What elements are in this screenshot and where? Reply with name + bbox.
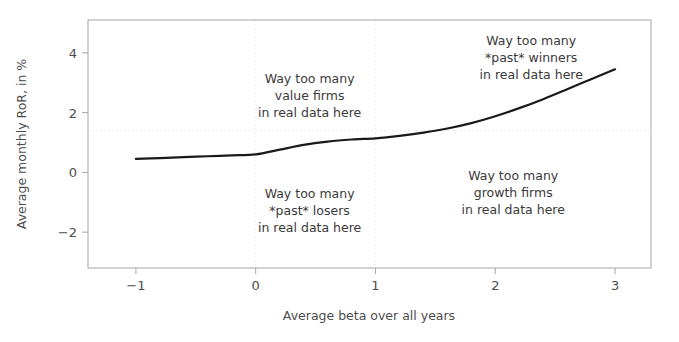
y-tick-label: −2 xyxy=(58,225,77,240)
annotation-line: growth firms xyxy=(474,185,553,200)
annotation-line: *past* winners xyxy=(485,50,577,65)
y-tick-label: 2 xyxy=(69,106,77,121)
x-axis-title: Average beta over all years xyxy=(283,308,455,323)
y-tick-label: 4 xyxy=(69,46,77,61)
annotation-line: Way too many xyxy=(265,71,356,86)
chart-canvas: −10123 −2024 Average beta over all years… xyxy=(0,0,679,342)
annotation-line: in real data here xyxy=(258,220,362,235)
annotation-line: in real data here xyxy=(480,67,584,82)
x-tick-label: −1 xyxy=(126,278,145,293)
x-tick-label: 1 xyxy=(371,278,379,293)
annotation-line: in real data here xyxy=(462,202,566,217)
y-axis-title: Average monthly RoR, in % xyxy=(14,59,29,229)
annotation-line: *past* losers xyxy=(269,203,349,218)
annotation-line: Way too many xyxy=(468,168,559,183)
x-tick-label: 2 xyxy=(491,278,499,293)
annotation-line: Way too many xyxy=(486,33,577,48)
annotation-line: Way too many xyxy=(265,186,356,201)
past-losers-annotation: Way too many*past* losersin real data he… xyxy=(258,186,362,235)
annotation-line: value firms xyxy=(275,88,345,103)
growth-firms-annotation: Way too manygrowth firmsin real data her… xyxy=(462,168,566,217)
y-tick-label: 0 xyxy=(69,165,77,180)
x-tick-label: 0 xyxy=(252,278,260,293)
past-winners-annotation: Way too many*past* winnersin real data h… xyxy=(480,33,584,82)
chart-figure: −10123 −2024 Average beta over all years… xyxy=(0,0,679,342)
x-tick-label: 3 xyxy=(611,278,619,293)
annotation-line: in real data here xyxy=(258,105,362,120)
